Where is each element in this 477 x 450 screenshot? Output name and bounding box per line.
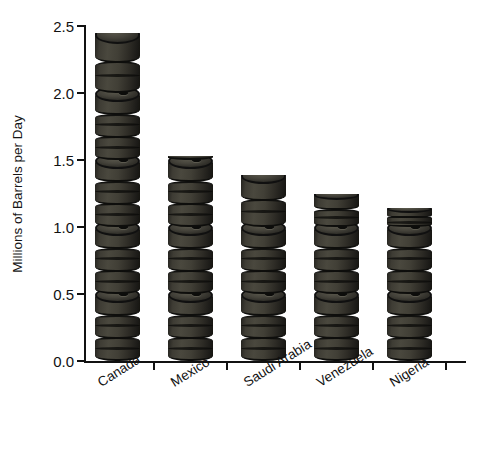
barrel-band (314, 337, 359, 361)
y-tick-label: 1.5 (53, 152, 74, 169)
y-tick-label: 2.0 (53, 85, 74, 102)
x-tick-mark (372, 361, 374, 370)
barrel-band-partial (387, 216, 432, 227)
barrel-band (95, 114, 140, 138)
y-tick-label: 0.5 (53, 286, 74, 303)
barrel-band (168, 337, 213, 361)
y-tick-mark (77, 360, 86, 362)
plot-area: 0.00.51.01.52.02.5 (84, 26, 466, 363)
barrel-band (95, 248, 140, 272)
y-tick-mark (77, 293, 86, 295)
barrel-band (387, 248, 432, 272)
barrel-band-partial (314, 209, 359, 227)
x-tick-mark (153, 361, 155, 370)
barrel-band (387, 315, 432, 339)
y-tick-label: 1.0 (53, 219, 74, 236)
y-tick-mark (77, 25, 86, 27)
barrel-band (168, 315, 213, 339)
barrel-band (95, 315, 140, 339)
x-tick-mark (445, 361, 447, 370)
y-tick-mark (77, 159, 86, 161)
y-axis-title: Millions of Barrels per Day (6, 24, 28, 364)
barrel-band (95, 337, 140, 361)
barrel-band (387, 270, 432, 294)
barrel-band (241, 270, 286, 294)
y-tick-mark (77, 226, 86, 228)
barrel-band (314, 248, 359, 272)
barrel-band-partial (95, 61, 140, 93)
barrel-lid-partial (314, 194, 359, 200)
barrel-band (314, 315, 359, 339)
bar-venezuela (314, 194, 359, 362)
barrel-band (168, 181, 213, 205)
barrel-band (241, 315, 286, 339)
bar-saudi-arabia (241, 175, 286, 361)
bar-nigeria (387, 208, 432, 361)
x-axis-line (84, 361, 466, 363)
bar-mexico (168, 156, 213, 361)
y-tick-label: 2.5 (53, 18, 74, 35)
y-axis-title-text: Millions of Barrels per Day (10, 115, 25, 273)
x-tick-mark (226, 361, 228, 370)
barrel-band (168, 270, 213, 294)
barrel-band (168, 203, 213, 227)
barrel-band (95, 270, 140, 294)
barrel-band (168, 248, 213, 272)
barrel-band (387, 337, 432, 361)
barrel-band (95, 203, 140, 227)
barrel-band (314, 270, 359, 294)
barrel-band (241, 337, 286, 361)
bar-canada (95, 33, 140, 361)
barrel-band (95, 181, 140, 205)
y-axis-line (84, 26, 86, 363)
barrel-band (95, 136, 140, 160)
y-tick-mark (77, 92, 86, 94)
chart-figure: Millions of Barrels per Day 0.00.51.01.5… (0, 0, 477, 450)
barrel-band (241, 248, 286, 272)
barrel-band-partial (241, 199, 286, 227)
y-tick-label: 0.0 (53, 353, 74, 370)
x-tick-mark (299, 361, 301, 370)
